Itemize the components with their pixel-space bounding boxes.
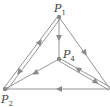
edge-p2-p1 (4, 16, 58, 88)
node-label-p4: P4 (63, 49, 75, 63)
edge-p3-p4 (59, 61, 109, 90)
edge-p1-p2 (7, 19, 60, 90)
node-p2 (3, 87, 7, 91)
arrow-left-icon (31, 69, 39, 77)
node-label-p2: P2 (1, 94, 13, 107)
arrow-down-icon (56, 35, 62, 41)
arrow-left-icon (56, 86, 62, 92)
node-label-p1: P1 (54, 3, 66, 17)
edge-p4-p2 (5, 59, 59, 89)
node-p4 (57, 57, 61, 61)
